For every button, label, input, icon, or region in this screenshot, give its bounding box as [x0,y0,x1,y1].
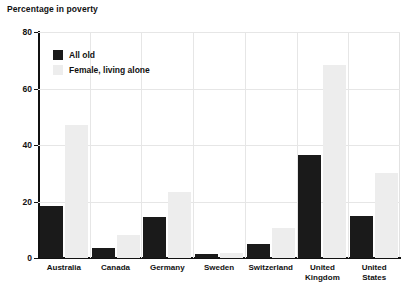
y-axis-tick [34,258,38,259]
bar [298,155,321,258]
y-axis-tick-label: 0 [2,253,32,263]
x-axis-category-label: Australia [38,263,90,273]
bar [92,248,115,258]
y-axis-tick-label: 20 [2,197,32,207]
legend-item-all-old: All old [53,48,150,61]
bar [143,217,166,258]
bar [117,235,140,258]
bar [247,244,270,258]
chart-legend: All old Female, living alone [53,48,150,78]
y-axis-tick-label: 60 [2,84,32,94]
y-axis-tick-label: 80 [2,27,32,37]
bar [220,253,243,258]
x-axis-category-label: Canada [90,263,142,273]
y-axis-tick-label: 40 [2,140,32,150]
x-axis-category-label: Switzerland [245,263,297,273]
legend-label: All old [69,50,95,60]
bar [195,254,218,258]
legend-label: Female, living alone [69,65,150,75]
bar [168,192,191,258]
bar [375,173,398,258]
legend-swatch-icon [53,65,63,75]
x-axis-category-label: Germany [141,263,193,273]
poverty-bar-chart: Percentage in poverty 020406080 Australi… [0,0,410,294]
chart-title: Percentage in poverty [7,4,98,14]
bar [65,125,88,258]
bar [323,65,346,259]
x-axis-category-label: Sweden [193,263,245,273]
bar [272,228,295,258]
bar [350,216,373,258]
x-axis-category-label: United States [348,263,400,283]
x-axis-category-label: United Kingdom [297,263,349,283]
legend-item-female-living-alone: Female, living alone [53,63,150,76]
legend-swatch-icon [53,50,63,60]
bar [40,206,63,258]
